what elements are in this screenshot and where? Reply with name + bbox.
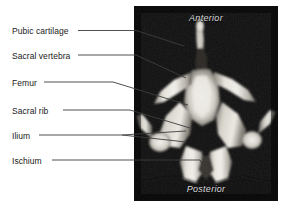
annotation-label-sacral-rib: Sacral rib [12,106,48,116]
annotation-label-pubic-cartilage: Pubic cartilage [12,26,69,36]
anatomical-figure: Anterior Posterior Pubic cartilage Sacra… [0,0,285,208]
orientation-label-posterior: Posterior [134,184,278,194]
annotation-label-ischium: Ischium [12,156,42,166]
annotation-label-femur: Femur [12,78,37,88]
orientation-label-anterior: Anterior [134,13,278,23]
specimen-image [134,6,278,201]
annotation-label-sacral-vertebra: Sacral vertebra [12,51,70,61]
annotation-label-ilium: Ilium [12,131,30,141]
specimen-photograph: Anterior Posterior [134,6,278,201]
